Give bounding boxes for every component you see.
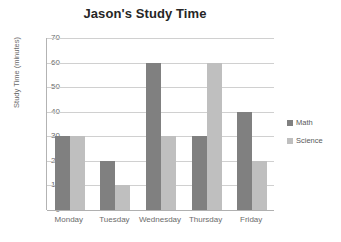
legend-label-science: Science xyxy=(296,136,323,145)
gridline-0 xyxy=(47,210,274,211)
legend-entry-science[interactable]: Science xyxy=(287,136,341,145)
bar-tuesday-math xyxy=(100,161,115,210)
legend-entry-math[interactable]: Math xyxy=(287,118,341,127)
bar-monday-math xyxy=(55,136,70,210)
chart-title: Jason's Study Time xyxy=(0,6,290,21)
bar-chart: Jason's Study Time Study Time (minutes) … xyxy=(0,0,341,242)
legend-label-math: Math xyxy=(296,118,313,127)
bar-friday-science xyxy=(252,161,267,210)
bars-layer xyxy=(47,38,274,210)
legend-swatch-math-icon xyxy=(287,120,293,126)
bar-monday-science xyxy=(70,136,85,210)
bar-tuesday-science xyxy=(115,185,130,210)
bar-friday-math xyxy=(237,112,252,210)
bar-thursday-science xyxy=(207,63,222,210)
bar-thursday-math xyxy=(192,136,207,210)
bar-wednesday-math xyxy=(146,63,161,210)
legend-swatch-science-icon xyxy=(287,138,293,144)
chart-legend: MathScience xyxy=(287,118,341,154)
x-tick-label-friday: Friday xyxy=(222,215,280,224)
plot-area xyxy=(46,38,274,210)
bar-wednesday-science xyxy=(161,136,176,210)
